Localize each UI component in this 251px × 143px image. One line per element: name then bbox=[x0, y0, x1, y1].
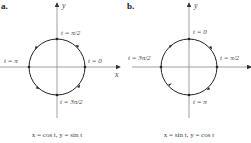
point-label-top: t = 0 bbox=[193, 28, 207, 36]
panel-a-label: a. bbox=[1, 1, 8, 11]
x-axis-label: x bbox=[114, 70, 119, 79]
panel-b: b. y t = 0 t = 3π/2 t = π/2 t = π x = si… bbox=[127, 1, 251, 139]
point-label-left: t = 3π/2 bbox=[128, 54, 151, 62]
point-label-top: t = π/2 bbox=[61, 29, 81, 37]
parametric-circles-diagram: a. y x t = π/2 t = π t = 0 t = 3π/2 x = … bbox=[0, 0, 251, 143]
caption-b: x = sin t, y = cos t bbox=[164, 131, 214, 139]
point-label-right: t = π/2 bbox=[220, 54, 240, 62]
panel-a: a. y x t = π/2 t = π t = 0 t = 3π/2 x = … bbox=[0, 1, 120, 139]
caption-a: x = cos t, y = sin t bbox=[32, 131, 82, 139]
point-label-left: t = π bbox=[4, 57, 18, 65]
direction-arrow-icon bbox=[169, 84, 173, 87]
y-axis-label: y bbox=[61, 1, 66, 10]
panel-b-label: b. bbox=[127, 1, 134, 11]
y-axis-label: y bbox=[193, 1, 198, 10]
point-label-right: t = 0 bbox=[88, 57, 102, 65]
point-label-bottom: t = π bbox=[193, 98, 207, 106]
point-label-bottom: t = 3π/2 bbox=[60, 98, 83, 106]
